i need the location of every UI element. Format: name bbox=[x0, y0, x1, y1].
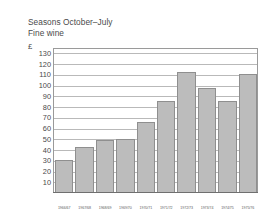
y-axis-tick-label: 10 bbox=[43, 179, 51, 186]
x-axis-tick-slot: 1966/67 bbox=[54, 195, 74, 213]
x-axis-tick-label: 1972/73 bbox=[180, 206, 193, 210]
x-axis-tick-label: 1975/76 bbox=[242, 206, 255, 210]
y-axis-tick-label: 90 bbox=[43, 93, 51, 100]
page-title: Seasons October–July bbox=[28, 17, 112, 28]
bar-slot bbox=[115, 48, 135, 192]
bar-series bbox=[54, 48, 258, 192]
bar-slot bbox=[156, 48, 176, 192]
y-axis-tick-label: 120 bbox=[39, 61, 51, 68]
bar[interactable] bbox=[198, 88, 216, 192]
x-axis-tick-slot: 1967/68 bbox=[74, 195, 94, 213]
x-axis-tick-slot: 1971/72 bbox=[156, 195, 176, 213]
plot-area bbox=[53, 48, 258, 193]
bar-slot bbox=[95, 48, 115, 192]
bar[interactable] bbox=[177, 72, 195, 192]
x-axis-tick-slot: 1972/73 bbox=[176, 195, 196, 213]
bar-slot bbox=[136, 48, 156, 192]
bar[interactable] bbox=[239, 74, 257, 192]
bar[interactable] bbox=[55, 160, 73, 192]
x-axis-tick-label: 1974/75 bbox=[221, 206, 234, 210]
bar-slot bbox=[54, 48, 74, 192]
y-axis-tick-label: 70 bbox=[43, 114, 51, 121]
bar-slot bbox=[197, 48, 217, 192]
y-axis-tick-label: 40 bbox=[43, 147, 51, 154]
x-axis-tick-slot: 1973/74 bbox=[197, 195, 217, 213]
y-axis-tick-label: 100 bbox=[39, 82, 51, 89]
bar[interactable] bbox=[116, 139, 134, 192]
y-axis-tick-label: 130 bbox=[39, 50, 51, 57]
bar[interactable] bbox=[75, 147, 93, 192]
x-axis-tick-label: 1969/70 bbox=[119, 206, 132, 210]
x-axis-tick-label: 1971/72 bbox=[160, 206, 173, 210]
x-axis-tick-slot: 1968/69 bbox=[95, 195, 115, 213]
x-axis-tick-slot: 1969/70 bbox=[115, 195, 135, 213]
bar[interactable] bbox=[218, 101, 236, 192]
x-axis-tick-label: 1967/68 bbox=[78, 206, 91, 210]
y-axis-tick-label: 50 bbox=[43, 136, 51, 143]
y-axis-tick-label: 30 bbox=[43, 157, 51, 164]
y-axis-tick-label: 60 bbox=[43, 125, 51, 132]
x-axis-tick-slot: 1970/71 bbox=[136, 195, 156, 213]
x-axis-tick-slot: 1974/75 bbox=[217, 195, 237, 213]
x-axis-tick-label: 1970/71 bbox=[140, 206, 153, 210]
bar[interactable] bbox=[137, 122, 155, 192]
bar[interactable] bbox=[96, 140, 114, 192]
chart-subtitle: Fine wine bbox=[28, 28, 112, 39]
chart-title-block: Seasons October–July Fine wine bbox=[28, 17, 112, 39]
bar-chart-figure: Seasons October–July Fine wine £ 1301201… bbox=[0, 0, 266, 217]
bar-slot bbox=[176, 48, 196, 192]
x-axis-tick-labels: 1966/671967/681968/691969/701970/711971/… bbox=[54, 195, 258, 213]
bar-slot bbox=[74, 48, 94, 192]
y-axis-tick-label: 80 bbox=[43, 104, 51, 111]
x-axis-tick-label: 1966/67 bbox=[58, 206, 71, 210]
y-axis-tick-label: 110 bbox=[39, 71, 51, 78]
y-axis-tick-labels: 130120110100908070605040302010 bbox=[26, 48, 51, 193]
bar[interactable] bbox=[157, 101, 175, 192]
bar-slot bbox=[238, 48, 258, 192]
bar-slot bbox=[217, 48, 237, 192]
x-axis-tick-label: 1968/69 bbox=[99, 206, 112, 210]
x-axis-tick-slot: 1975/76 bbox=[238, 195, 258, 213]
x-axis-baseline bbox=[53, 192, 258, 193]
x-axis-tick-label: 1973/74 bbox=[201, 206, 214, 210]
y-axis-tick-label: 20 bbox=[43, 168, 51, 175]
